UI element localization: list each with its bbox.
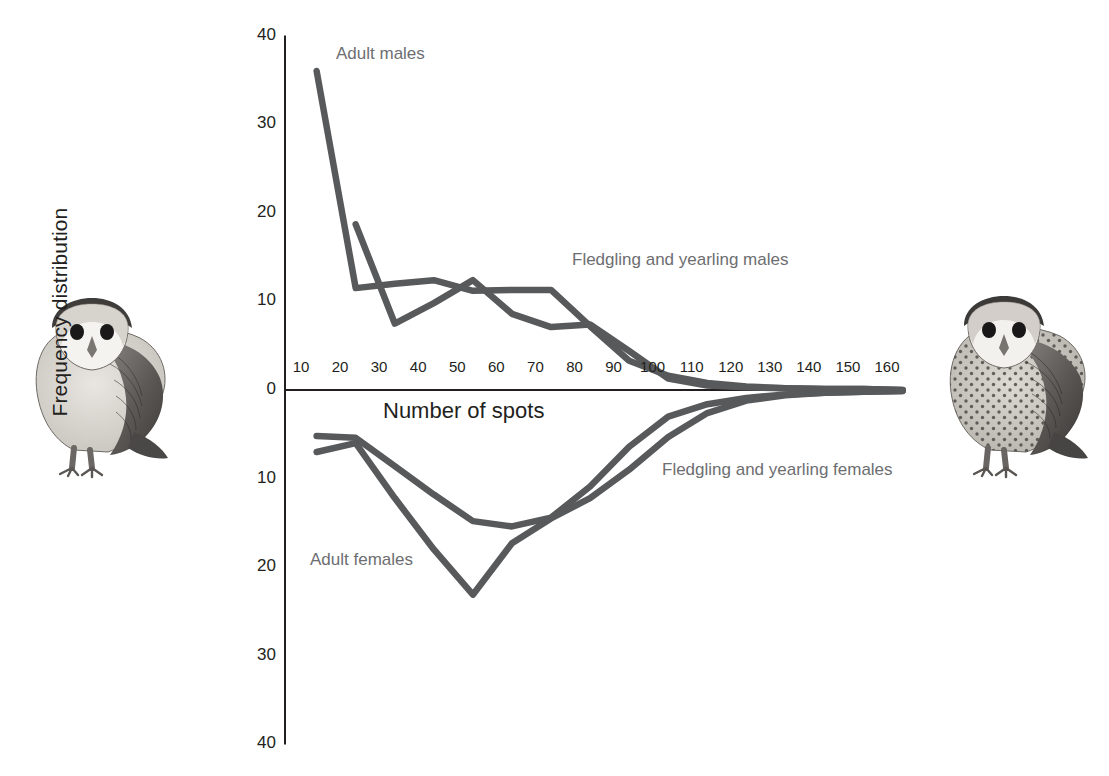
x-tick-20: 20 xyxy=(320,358,360,375)
chart-figure: Frequency distribution Number of spots A… xyxy=(0,0,1109,776)
y-tick-3: 10 xyxy=(236,290,276,310)
y-tick-7: 30 xyxy=(236,645,276,665)
y-tick-1: 30 xyxy=(236,113,276,133)
y-tick-6: 20 xyxy=(236,556,276,576)
x-tick-50: 50 xyxy=(437,358,477,375)
x-tick-40: 40 xyxy=(398,358,438,375)
x-tick-120: 120 xyxy=(711,358,751,375)
y-tick-8: 40 xyxy=(236,733,276,753)
series-line-adult-males xyxy=(317,71,903,390)
series-line-adult-females xyxy=(317,391,903,595)
x-tick-60: 60 xyxy=(476,358,516,375)
x-tick-110: 110 xyxy=(672,358,712,375)
plot-area xyxy=(0,0,1109,776)
y-tick-0: 40 xyxy=(236,25,276,45)
x-tick-100: 100 xyxy=(633,358,673,375)
y-tick-2: 20 xyxy=(236,202,276,222)
x-tick-90: 90 xyxy=(594,358,634,375)
x-tick-70: 70 xyxy=(515,358,555,375)
x-tick-150: 150 xyxy=(828,358,868,375)
x-tick-140: 140 xyxy=(789,358,829,375)
x-tick-30: 30 xyxy=(359,358,399,375)
y-tick-5: 10 xyxy=(236,468,276,488)
y-tick-4: 0 xyxy=(236,379,276,399)
x-tick-160: 160 xyxy=(867,358,907,375)
x-tick-80: 80 xyxy=(554,358,594,375)
x-tick-10: 10 xyxy=(281,358,321,375)
x-tick-130: 130 xyxy=(750,358,790,375)
